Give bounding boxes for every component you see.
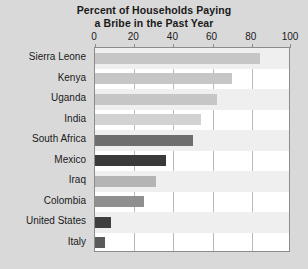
bar — [95, 237, 105, 248]
bar — [95, 135, 193, 146]
x-tick-label-40: 40 — [167, 31, 178, 42]
bar-row — [95, 192, 289, 213]
bar — [95, 196, 144, 207]
bar-row — [95, 89, 289, 110]
bar — [95, 217, 111, 228]
x-tick-label-80: 80 — [245, 31, 256, 42]
bar — [95, 155, 166, 166]
category-label: Kenya — [0, 72, 90, 83]
bar — [95, 94, 217, 105]
bar — [95, 114, 201, 125]
category-label: Uganda — [0, 92, 90, 103]
bar — [95, 73, 232, 84]
bar-row — [95, 48, 289, 69]
chart-title: Percent of Households Paying a Bribe in … — [0, 4, 308, 30]
bar-row — [95, 69, 289, 90]
category-label: Mexico — [0, 154, 90, 165]
x-tick-label-0: 0 — [91, 31, 97, 42]
bar-rows — [95, 48, 289, 251]
bar-row — [95, 233, 289, 254]
bar-row — [95, 110, 289, 131]
x-tick-label-60: 60 — [206, 31, 217, 42]
category-label: Colombia — [0, 195, 90, 206]
bar-row — [95, 151, 289, 172]
bar-row — [95, 130, 289, 151]
chart-title-line-2: a Bribe in the Past Year — [0, 17, 308, 30]
bar — [95, 53, 260, 64]
x-tick-label-20: 20 — [128, 31, 139, 42]
plot-area — [94, 47, 290, 252]
category-label: Sierra Leone — [0, 51, 90, 62]
tick-mark-100 — [290, 44, 291, 48]
y-axis-category-labels: Sierra LeoneKenyaUgandaIndiaSouth Africa… — [0, 47, 90, 252]
category-label: United States — [0, 215, 90, 226]
category-label: South Africa — [0, 133, 90, 144]
chart-title-line-1: Percent of Households Paying — [0, 4, 308, 17]
bar-chart: Percent of Households Paying a Bribe in … — [0, 0, 308, 269]
bar-row — [95, 212, 289, 233]
x-axis-tick-labels: 020406080100 — [94, 31, 290, 45]
category-label: India — [0, 113, 90, 124]
bar-row — [95, 171, 289, 192]
x-tick-label-100: 100 — [282, 31, 299, 42]
category-label: Iraq — [0, 174, 90, 185]
category-label: Italy — [0, 236, 90, 247]
bar — [95, 176, 156, 187]
